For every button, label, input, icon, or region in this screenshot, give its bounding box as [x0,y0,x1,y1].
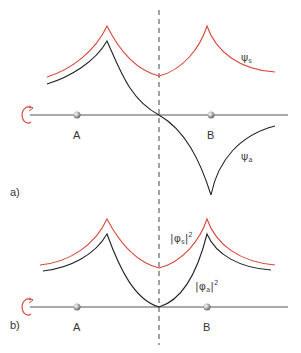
phi-s-squared-label: |φs|2 [170,231,193,246]
atom-a-nucleus [74,112,81,119]
panel-b-label: b) [10,319,20,331]
phi-a-squared-label: |φa|2 [195,279,218,294]
panel-b: A B |φs|2 |φa|2 b) [10,219,288,333]
phi-s-squared-curve [40,219,275,268]
panel-a: A B ψs ψa a) [10,26,288,198]
panel-a-label: a) [10,186,20,198]
psi-s-label: ψs [241,51,252,65]
atom-b-nucleus [208,112,215,119]
phi-a-squared-curve [43,234,271,307]
molecular-orbital-diagram: A B ψs ψa a) A B |φs|2 [0,0,301,353]
psi-a-label: ψa [241,150,253,164]
atom-b-label: B [207,129,214,141]
atom-a-label: A [73,129,81,141]
atom-a-nucleus [74,304,81,311]
atom-b-nucleus [204,304,211,311]
atom-b-label: B [203,321,210,333]
atom-a-label: A [73,321,81,333]
